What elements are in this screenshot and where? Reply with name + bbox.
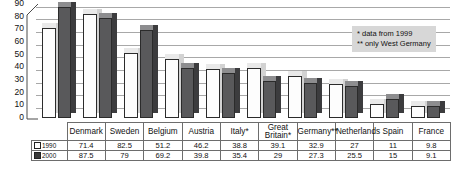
bar-top-face [370,99,384,104]
bar-2000-greatbritain [263,81,277,118]
table-row-2000: 200087.57969.239.835.42927.325.5159.1 [32,151,451,161]
bar-face [263,81,277,118]
bar-1990-spain [370,104,384,118]
bar-face [222,73,236,118]
bar-face [345,86,359,118]
bar-top-face [140,25,154,30]
cell-2000-spain: 15 [374,151,412,161]
cell-1990-germany: 32.9 [297,141,335,151]
bar-top-face [386,94,400,99]
legend-label-2000: 2000 [42,152,56,159]
bar-top-face [206,64,220,69]
bar-2000-netherlands [345,86,359,118]
legend-label-1990: 1990 [42,142,56,149]
bar-1990-austria [165,59,179,118]
bar-face [165,59,179,118]
bar-top-face [83,9,97,14]
table-row-1990: 199071.482.551.246.238.839.132.927119.8 [32,141,451,151]
bar-face [288,76,302,118]
cell-1990-denmark: 71.4 [67,141,105,151]
bar-face [386,99,400,118]
y-axis-tick-60: 60 [0,37,24,45]
bar-face [304,83,318,118]
bar-1990-belgium [124,53,138,118]
annotation-box: * data from 1999 ** only West Germany [352,26,436,52]
y-axis-tick-40: 40 [0,62,24,70]
cell-1990-spain: 11 [374,141,412,151]
cell-1990-belgium: 51.2 [144,141,182,151]
column-header-france: France [412,123,450,141]
annotation-line-1: * data from 1999 [357,29,431,39]
y-axis-tick-50: 50 [0,50,24,58]
column-header-sweden: Sweden [105,123,143,141]
bar-1990-italy [206,69,220,118]
bar-1990-germany [288,76,302,118]
bar-top-face [288,71,302,76]
y-axis-tick-30: 30 [0,75,24,83]
bar-face [58,7,72,118]
bar-face [411,106,425,118]
bar-top-face [304,78,318,83]
column-header-greatbritain: Great Britain* [259,123,297,141]
chart-figure: 0102030405060708090 * data from 1999 ** … [0,0,456,177]
bar-1990-greatbritain [247,68,261,118]
data-table: DenmarkSwedenBelgiumAustriaItaly*Great B… [31,122,451,161]
bar-top-face [222,68,236,73]
y-axis-tick-70: 70 [0,24,24,32]
bar-2000-france [427,106,441,118]
legend-swatch-2000 [34,152,41,159]
bar-1990-denmark [42,28,56,118]
bar-side-face [358,81,363,113]
table-corner-cell [32,123,68,141]
axis-3d-wall [26,4,38,118]
bar-face [206,69,220,118]
y-axis-tick-80: 80 [0,12,24,20]
bar-top-face [42,23,56,28]
column-header-denmark: Denmark [67,123,105,141]
y-axis-tick-0: 0 [0,113,24,121]
bar-side-face [276,76,281,113]
bar-top-face [411,101,425,106]
bar-face [124,53,138,118]
bar-face [181,68,195,118]
bar-top-face [165,54,179,59]
cell-2000-france: 9.1 [412,151,450,161]
legend-item-2000: 2000 [32,151,68,161]
plot-area: 0102030405060708090 * data from 1999 ** … [0,0,456,122]
bar-side-face [153,25,158,113]
bar-face [427,106,441,118]
bar-side-face [317,78,322,113]
bar-face [83,14,97,119]
cell-2000-sweden: 79 [105,151,143,161]
bar-2000-sweden [99,18,113,118]
bar-1990-sweden [83,14,97,119]
column-header-austria: Austria [182,123,220,141]
cell-1990-greatbritain: 39.1 [259,141,297,151]
column-header-germany: Germany** [297,123,335,141]
y-axis-tick-10: 10 [0,100,24,108]
y-axis-tick-90: 90 [0,0,24,7]
bar-top-face [124,48,138,53]
legend-item-1990: 1990 [32,141,68,151]
column-header-belgium: Belgium [144,123,182,141]
bar-top-face [247,63,261,68]
y-axis-tick-20: 20 [0,88,24,96]
cell-2000-denmark: 87.5 [67,151,105,161]
gridline-80 [36,7,450,8]
bar-side-face [112,13,117,113]
bar-top-face [181,63,195,68]
cell-2000-greatbritain: 29 [259,151,297,161]
bar-face [42,28,56,118]
bar-side-face [235,68,240,113]
bar-2000-italy [222,73,236,118]
bar-face [329,84,343,118]
bar-2000-belgium [140,30,154,118]
bar-2000-austria [181,68,195,118]
cell-2000-netherlands: 25.5 [335,151,373,161]
bar-face [247,68,261,118]
cell-2000-belgium: 69.2 [144,151,182,161]
cell-1990-italy: 38.8 [220,141,258,151]
cell-2000-germany: 27.3 [297,151,335,161]
column-header-netherlands: Netherlands [335,123,373,141]
bar-top-face [345,81,359,86]
